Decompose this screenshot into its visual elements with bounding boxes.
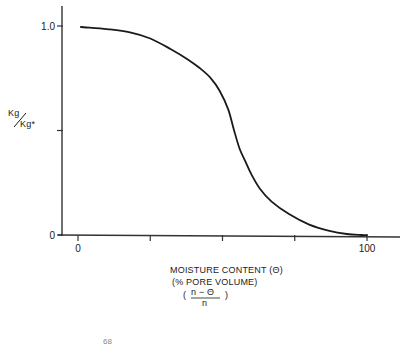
svg-text:n − Θ: n − Θ: [191, 287, 214, 297]
svg-text:MOISTURE CONTENT (Θ): MOISTURE CONTENT (Θ): [170, 265, 283, 275]
svg-text:(: (: [183, 290, 186, 300]
x-axis-label: MOISTURE CONTENT (Θ) (% PORE VOLUME) ( n…: [170, 265, 283, 308]
svg-text:): ): [225, 290, 228, 300]
svg-text:n: n: [202, 298, 207, 308]
y-ticks: 01.0: [41, 21, 63, 241]
x-tick-label: 0: [75, 243, 81, 254]
svg-text:(% PORE VOLUME): (% PORE VOLUME): [172, 277, 258, 287]
x-tick-label: 100: [359, 243, 376, 254]
footnote: 68: [103, 337, 112, 346]
svg-text:Kg*: Kg*: [20, 119, 35, 129]
x-ticks: 0100: [75, 235, 376, 254]
chart: 01.0 0100 Kg Kg* MOISTURE CONTENT (Θ) (%…: [0, 0, 415, 346]
svg-text:Kg: Kg: [8, 108, 19, 118]
y-axis-label: Kg Kg*: [8, 108, 35, 129]
y-tick-label: 0: [49, 230, 55, 241]
x-axis: [58, 235, 400, 237]
y-tick-label: 1.0: [41, 21, 55, 32]
data-line: [81, 27, 367, 235]
